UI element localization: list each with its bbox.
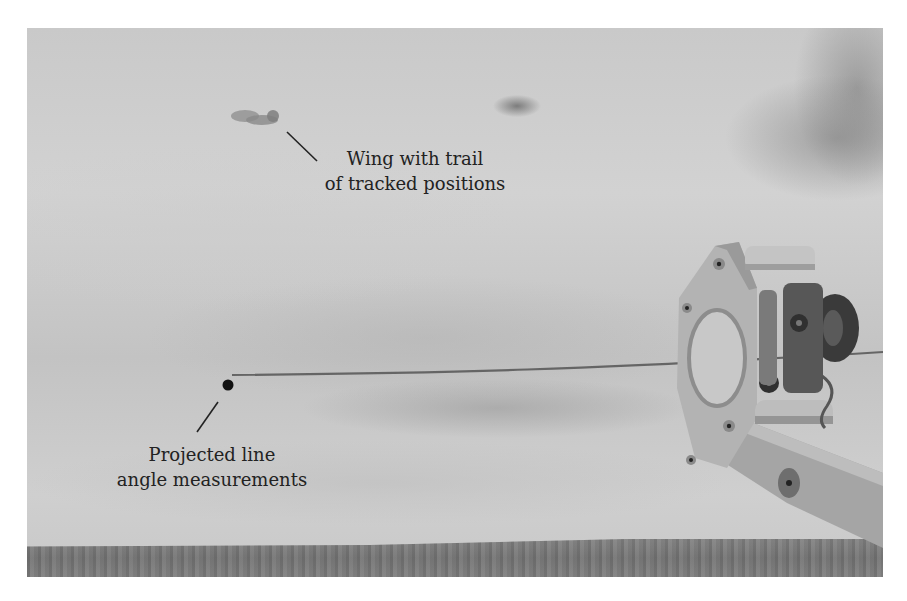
wing-annotation-line2: of tracked positions	[310, 171, 520, 196]
photo-overlay	[27, 28, 883, 577]
photo: Wing with trail of tracked positions Pro…	[27, 28, 883, 577]
angle-leader-line	[197, 402, 218, 432]
line-angle-annotation-line1: Projected line	[112, 442, 312, 467]
sensor-mount	[677, 242, 883, 548]
wing-annotation: Wing with trail of tracked positions	[310, 146, 520, 196]
wing-annotation-line1: Wing with trail	[310, 146, 520, 171]
line-angle-annotation: Projected line angle measurements	[112, 442, 312, 492]
wing-with-trail	[231, 110, 279, 125]
line-angle-annotation-line2: angle measurements	[112, 467, 312, 492]
line-angle-marker	[223, 380, 234, 391]
